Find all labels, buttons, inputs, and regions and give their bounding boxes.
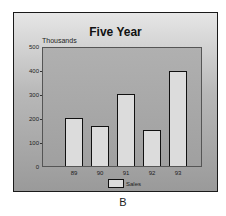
legend: Sales bbox=[108, 179, 141, 188]
legend-label-sales: Sales bbox=[126, 181, 141, 187]
y-axis-unit-label: Thousands bbox=[42, 37, 77, 44]
x-label-90: 90 bbox=[91, 170, 109, 176]
bar-90 bbox=[91, 126, 109, 166]
y-tick-300: 300 bbox=[14, 92, 39, 98]
plot-area bbox=[42, 47, 202, 167]
figure-caption: B bbox=[0, 196, 226, 208]
x-label-92: 92 bbox=[143, 170, 161, 176]
y-tick-500: 500 bbox=[14, 44, 39, 50]
legend-swatch-sales bbox=[108, 179, 124, 188]
bar-93 bbox=[169, 71, 187, 166]
chart-frame: Five Year Thousands 500 400 300 200 100 … bbox=[13, 12, 218, 192]
x-label-89: 89 bbox=[65, 170, 83, 176]
y-tick-400: 400 bbox=[14, 68, 39, 74]
y-tick-100: 100 bbox=[14, 140, 39, 146]
bar-92 bbox=[143, 130, 161, 166]
y-tick-0: 0 bbox=[14, 164, 39, 170]
x-label-91: 91 bbox=[117, 170, 135, 176]
y-tick-200: 200 bbox=[14, 116, 39, 122]
bar-91 bbox=[117, 94, 135, 166]
bar-89 bbox=[65, 118, 83, 166]
x-label-93: 93 bbox=[169, 170, 187, 176]
